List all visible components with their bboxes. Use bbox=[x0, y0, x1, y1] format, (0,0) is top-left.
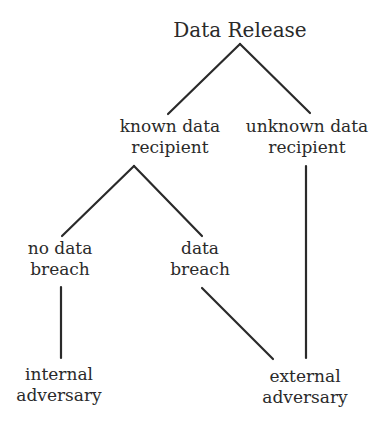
node-label-line2: recipient bbox=[120, 137, 220, 158]
node-label-line1: internal bbox=[16, 364, 101, 385]
node-external-adversary: external adversary bbox=[262, 366, 347, 408]
node-data-breach: data breach bbox=[170, 238, 230, 280]
edge-breach-external bbox=[202, 288, 273, 359]
node-label-line2: breach bbox=[28, 259, 93, 280]
edge-known-nobreach bbox=[62, 166, 134, 236]
node-label-line2: adversary bbox=[262, 387, 347, 408]
node-label-line1: known data bbox=[120, 116, 220, 137]
node-label-line1: unknown data bbox=[246, 116, 368, 137]
node-no-data-breach: no data breach bbox=[28, 238, 93, 280]
node-internal-adversary: internal adversary bbox=[16, 364, 101, 406]
node-unknown-data-recipient: unknown data recipient bbox=[246, 116, 368, 158]
node-data-release: Data Release bbox=[173, 18, 306, 42]
node-label-line2: recipient bbox=[246, 137, 368, 158]
data-release-tree-diagram: Data Release known data recipient unknow… bbox=[0, 0, 374, 428]
node-label-line1: data bbox=[170, 238, 230, 259]
node-label-line1: external bbox=[262, 366, 347, 387]
edge-root-known bbox=[168, 44, 240, 114]
edge-known-breach bbox=[134, 166, 202, 236]
node-label-line2: breach bbox=[170, 259, 230, 280]
node-known-data-recipient: known data recipient bbox=[120, 116, 220, 158]
node-label-line1: no data bbox=[28, 238, 93, 259]
edge-root-unknown bbox=[240, 44, 310, 113]
node-label: Data Release bbox=[173, 18, 306, 42]
node-label-line2: adversary bbox=[16, 385, 101, 406]
